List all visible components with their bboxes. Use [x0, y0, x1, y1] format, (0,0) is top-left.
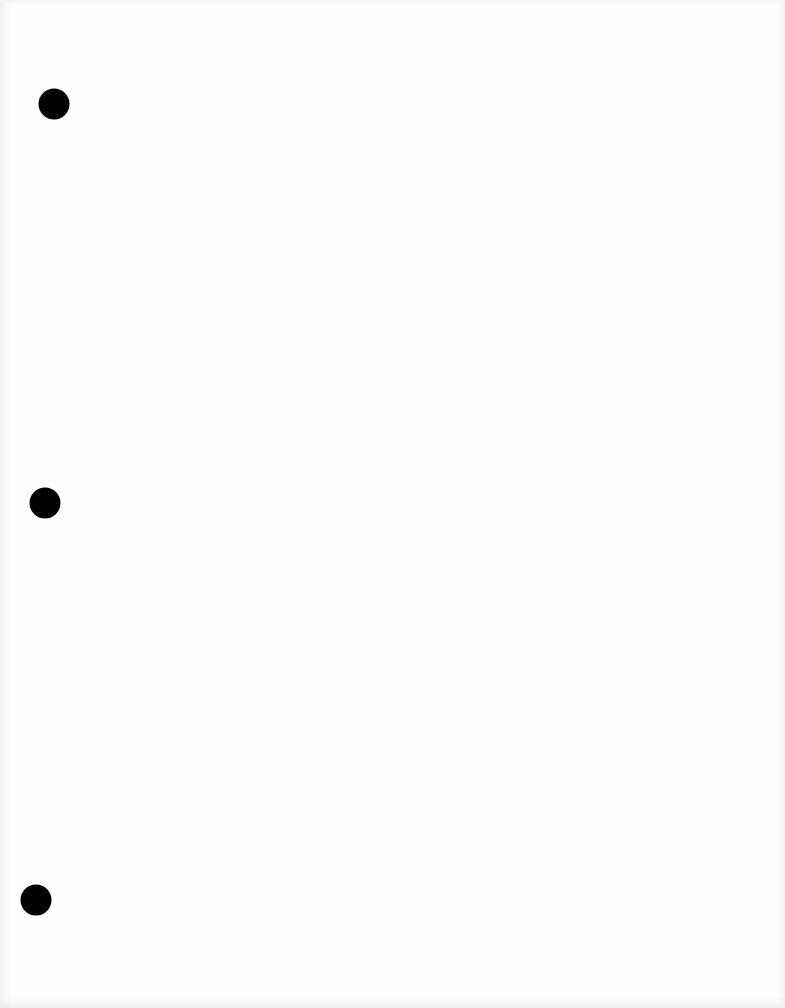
punch-hole-bottom	[21, 885, 52, 916]
punch-hole-middle	[30, 488, 61, 519]
blank-page	[0, 0, 785, 1008]
scan-edge-bottom	[0, 998, 785, 1008]
scan-edge-right	[777, 0, 785, 1008]
punch-hole-top	[39, 89, 70, 120]
scan-edge-left	[0, 0, 12, 1008]
scan-edge-top	[0, 0, 785, 4]
